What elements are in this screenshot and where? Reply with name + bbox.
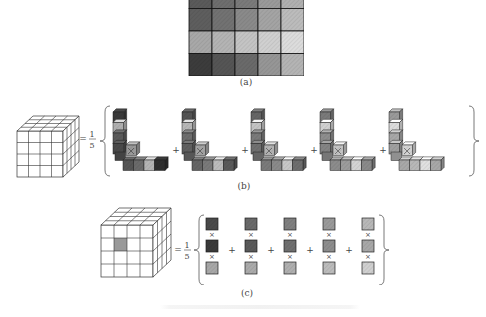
right-brace (379, 215, 389, 285)
panel-a-label: (a) (226, 77, 266, 87)
panel-b: =15++++ (0, 100, 486, 180)
plus-sign: + (345, 245, 353, 255)
times-sign: × (365, 253, 371, 261)
times-sign: × (365, 231, 371, 239)
product-term: ×× (284, 218, 296, 274)
plus-sign: + (267, 245, 275, 255)
l-shape-term (320, 109, 375, 171)
highlighted-cell (114, 238, 127, 251)
panel-c-figure: =15××+××+××+××+×× (0, 185, 486, 285)
panel-c-fraction-equals: = (174, 245, 182, 255)
panel-a (188, 0, 304, 76)
right-brace (469, 106, 479, 176)
plus-sign: + (306, 245, 314, 255)
plus-sign: + (172, 145, 180, 155)
panel-b-fraction-equals: = (79, 134, 87, 144)
cube-4x4x4 (17, 116, 79, 177)
times-sign: × (209, 231, 215, 239)
times-sign: × (248, 253, 254, 261)
plus-sign: + (379, 145, 387, 155)
figure-caption-illegible (160, 305, 360, 309)
l-shape-term (251, 109, 306, 171)
panel-c: =15××+××+××+××+×× (0, 185, 486, 285)
l-shape-term (182, 109, 237, 171)
panel-a-grid (188, 0, 304, 76)
l-shape-term (113, 109, 168, 171)
plus-sign: + (228, 245, 236, 255)
product-term: ×× (323, 218, 335, 274)
plus-sign: + (310, 145, 318, 155)
product-term: ×× (362, 218, 374, 274)
plus-sign: + (241, 145, 249, 155)
cube-4x4x4 (101, 208, 171, 277)
panel-c-fraction-numerator: 1 (184, 241, 189, 250)
times-sign: × (287, 253, 293, 261)
times-sign: × (326, 253, 332, 261)
left-brace (100, 106, 110, 176)
panel-b-fraction-denominator: 5 (89, 141, 94, 150)
panel-c-label: (c) (227, 288, 267, 298)
times-sign: × (248, 231, 254, 239)
l-shape-term (389, 109, 444, 171)
product-term: ×× (206, 218, 218, 274)
times-sign: × (209, 253, 215, 261)
product-term: ×× (245, 218, 257, 274)
panel-b-figure: =15++++ (0, 100, 486, 180)
times-sign: × (287, 231, 293, 239)
panel-c-fraction-denominator: 5 (184, 252, 189, 261)
panel-b-fraction-numerator: 1 (89, 130, 94, 139)
times-sign: × (326, 231, 332, 239)
left-brace (194, 215, 204, 285)
